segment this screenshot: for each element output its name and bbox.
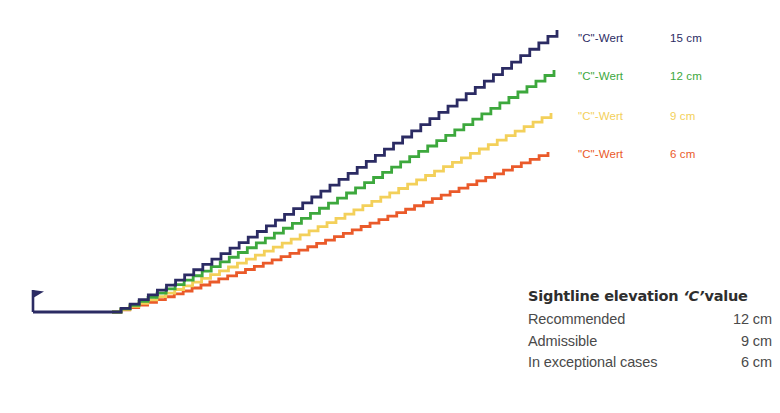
info-label-admissible: Admissible (528, 331, 597, 353)
legend-value-15cm: 15 cm (670, 32, 702, 44)
rake-curves-group (112, 30, 557, 312)
info-row-exceptional: In exceptional cases 6 cm (528, 352, 772, 374)
info-title-c-variable: ‘C’ (683, 288, 704, 304)
sightline-info-table: Sightline elevation ‘C’value Recommended… (528, 288, 772, 374)
info-table-title: Sightline elevation ‘C’value (528, 288, 772, 304)
legend-item-6cm: "C"-Wert 6 cm (578, 146, 774, 162)
info-value-admissible: 9 cm (741, 331, 772, 353)
info-title-suffix: value (704, 288, 747, 304)
info-label-exceptional: In exceptional cases (528, 352, 657, 374)
corner-flag-icon (33, 290, 44, 298)
rake-curve-12cm (112, 70, 554, 312)
info-row-admissible: Admissible 9 cm (528, 331, 772, 353)
info-value-recommended: 12 cm (733, 309, 772, 331)
legend-label-15cm: "C"-Wert (578, 32, 670, 44)
legend-item-15cm: "C"-Wert 15 cm (578, 30, 774, 46)
diagram-canvas: "C"-Wert 15 cm "C"-Wert 12 cm "C"-Wert 9… (0, 0, 780, 413)
legend-value-6cm: 6 cm (670, 148, 695, 160)
info-row-recommended: Recommended 12 cm (528, 309, 772, 331)
legend-label-6cm: "C"-Wert (578, 148, 670, 160)
rake-curve-6cm (112, 152, 548, 312)
legend-item-9cm: "C"-Wert 9 cm (578, 108, 774, 124)
legend-value-12cm: 12 cm (670, 70, 702, 82)
rake-curve-15cm (112, 30, 557, 312)
legend-value-9cm: 9 cm (670, 110, 695, 122)
rake-curve-9cm (112, 113, 551, 312)
info-value-exceptional: 6 cm (741, 352, 772, 374)
corner-flag-group (33, 290, 44, 312)
info-label-recommended: Recommended (528, 309, 625, 331)
legend-item-12cm: "C"-Wert 12 cm (578, 68, 774, 84)
legend-label-9cm: "C"-Wert (578, 110, 670, 122)
info-title-prefix: Sightline elevation (528, 288, 683, 304)
legend-label-12cm: "C"-Wert (578, 70, 670, 82)
